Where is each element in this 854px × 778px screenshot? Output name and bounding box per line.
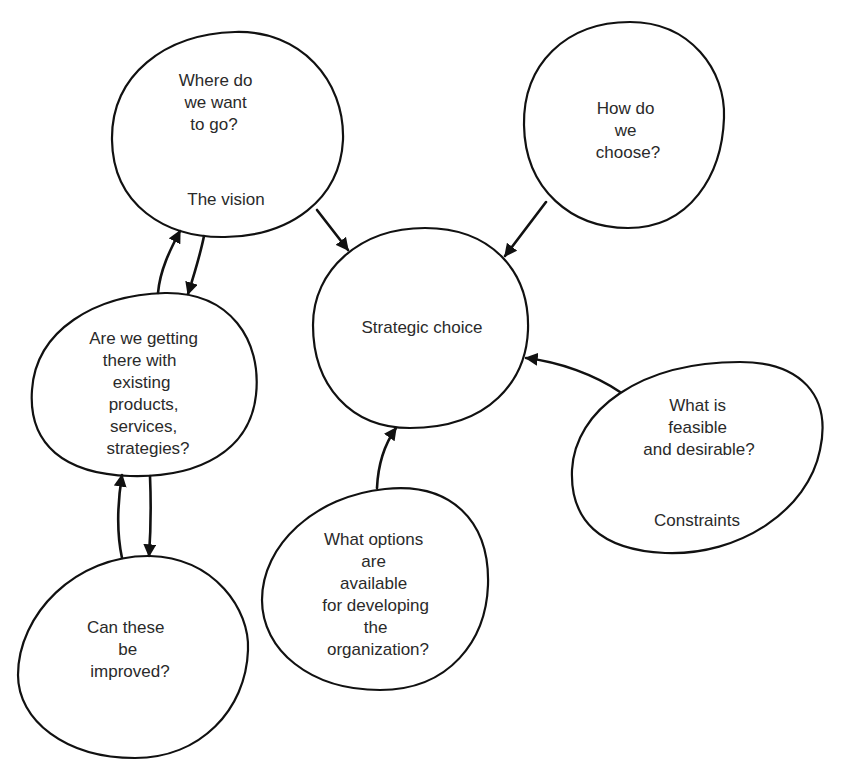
- node-feasible: What is feasible and desirable? Constrai…: [572, 362, 823, 553]
- feasible-line-3: and desirable?: [643, 440, 755, 459]
- vision-line-2: we want: [183, 93, 247, 112]
- choose-line-1: How do: [597, 99, 655, 118]
- node-improve: Can these be improved?: [18, 556, 248, 758]
- choose-line-2: we: [614, 121, 637, 140]
- arrow-improve-to-existing: [118, 475, 122, 558]
- existing-line-4: products,: [109, 395, 179, 414]
- existing-line-2: there with: [103, 351, 177, 370]
- vision-caption: The vision: [187, 190, 264, 209]
- node-vision: Where do we want to go? The vision: [112, 32, 343, 237]
- options-line-5: the: [364, 618, 388, 637]
- options-line-4: for developing: [322, 596, 429, 615]
- arrow-options-to-strategic-choice: [377, 428, 396, 488]
- arrow-existing-to-vision: [158, 231, 180, 293]
- arrow-feasible-to-strategic-choice: [526, 358, 620, 392]
- strategic-choice-label: Strategic choice: [362, 318, 483, 337]
- feasible-line-2: feasible: [668, 418, 727, 437]
- improve-line-2: be: [118, 640, 137, 659]
- vision-line-1: Where do: [179, 71, 253, 90]
- node-options: What options are available for developin…: [262, 488, 488, 690]
- node-choose: How do we choose?: [524, 22, 724, 228]
- arrow-choose-to-strategic-choice: [505, 202, 546, 256]
- improve-line-1: Can these: [87, 618, 165, 637]
- existing-line-5: services,: [110, 417, 177, 436]
- options-line-3: available: [340, 574, 407, 593]
- feasible-line-1: What is: [669, 396, 726, 415]
- node-strategic-choice: Strategic choice: [313, 228, 528, 428]
- improve-line-3: improved?: [90, 662, 169, 681]
- options-line-1: What options: [324, 530, 423, 549]
- arrow-vision-to-existing: [188, 236, 204, 294]
- existing-line-3: existing: [113, 373, 171, 392]
- existing-line-6: strategies?: [106, 439, 189, 458]
- vision-line-3: to go?: [190, 115, 237, 134]
- arrow-existing-to-improve: [149, 476, 151, 556]
- arrow-vision-to-strategic-choice: [317, 210, 348, 250]
- choose-line-3: choose?: [596, 143, 660, 162]
- strategic-choice-diagram: Where do we want to go? The vision How d…: [0, 0, 854, 778]
- existing-line-1: Are we getting: [89, 329, 198, 348]
- options-line-6: organization?: [327, 640, 429, 659]
- options-line-2: are: [361, 552, 386, 571]
- node-existing: Are we getting there with existing produ…: [32, 293, 257, 476]
- feasible-caption: Constraints: [654, 511, 740, 530]
